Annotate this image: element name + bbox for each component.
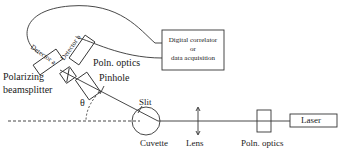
poln-optics-top-label: Poln. optics bbox=[93, 58, 140, 68]
setup-diagram bbox=[0, 0, 351, 161]
correlator-line-2: or bbox=[162, 45, 224, 54]
theta-arc bbox=[86, 96, 96, 121]
lens-label: Lens bbox=[186, 139, 204, 148]
laser-label: Laser bbox=[301, 116, 321, 125]
slit-label: Slit bbox=[139, 98, 152, 107]
pinhole-label: Pinhole bbox=[99, 73, 130, 83]
beamsplitter-label: beamsplitter bbox=[3, 85, 52, 95]
correlator-line-3: data acquisition bbox=[162, 54, 224, 63]
cuvette-label: Cuvette bbox=[140, 139, 168, 148]
cuvette-circle bbox=[132, 107, 160, 135]
poln-optics-top-box bbox=[75, 72, 100, 100]
poln-optics-bottom-label: Poln. optics bbox=[241, 139, 284, 148]
correlator-line-1: Digital correlator bbox=[162, 36, 224, 45]
polarizing-label: Polarizing bbox=[3, 72, 44, 82]
theta-label: θ bbox=[80, 98, 85, 108]
cable-detector-a bbox=[27, 6, 162, 53]
correlator-label: Digital correlator or data acquisition bbox=[162, 36, 224, 63]
